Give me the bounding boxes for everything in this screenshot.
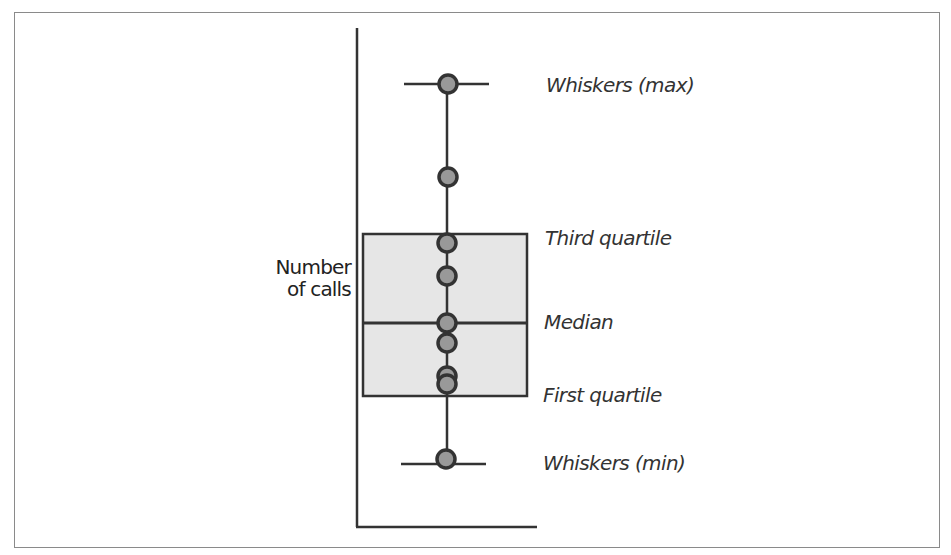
y-axis-label-line1: Number [275,256,351,278]
annotation-first-quartile: First quartile [543,385,662,405]
data-point [439,75,457,93]
data-point [438,234,456,252]
data-point [438,314,456,332]
data-point [439,168,457,186]
box-plot [0,0,951,555]
y-axis-label-line2: of calls [275,278,351,300]
data-point [438,267,456,285]
annotation-third-quartile: Third quartile [545,228,671,248]
annotation-whiskers-max: Whiskers (max) [546,75,694,95]
data-point [437,450,455,468]
data-point [438,334,456,352]
y-axis-label: Number of calls [275,256,351,300]
data-point [438,375,456,393]
annotation-median: Median [544,312,613,332]
annotation-whiskers-min: Whiskers (min) [543,453,685,473]
